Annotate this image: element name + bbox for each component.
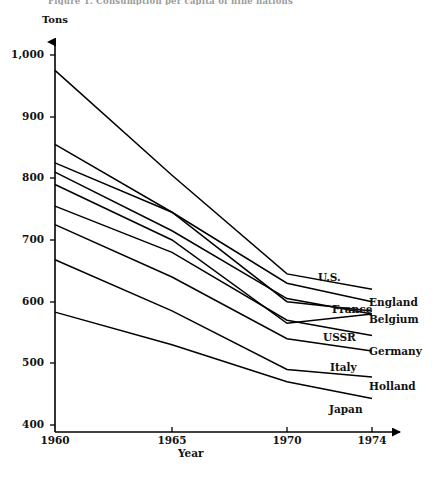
series-label-ussr: USSR (323, 331, 356, 343)
x-tick-label: 1974 (350, 434, 394, 446)
series-line-japan (55, 312, 372, 398)
y-tick-label: 500 (2, 356, 44, 368)
line-chart-figure: Figure 1. Consumption per capita of nine… (0, 0, 436, 486)
series-label-japan: Japan (329, 403, 363, 415)
series-line-us (55, 70, 372, 289)
x-tick-label: 1965 (150, 434, 194, 446)
series-label-italy: Italy (330, 361, 357, 373)
axes-group (50, 42, 400, 432)
series-label-holland: Holland (369, 380, 416, 392)
series-label-england: England (369, 296, 418, 308)
series-label-belgium: Belgium (369, 313, 419, 325)
series-label-germany: Germany (369, 345, 422, 357)
y-tick-label: 1,000 (2, 48, 44, 60)
series-line-belgium (55, 172, 372, 314)
plot-area (0, 0, 436, 486)
y-tick-label: 800 (2, 171, 44, 183)
y-tick-label: 400 (2, 418, 44, 430)
x-tick-label: 1960 (33, 434, 77, 446)
series-line-ussr (55, 185, 372, 324)
y-tick-label: 600 (2, 295, 44, 307)
series-line-france (55, 163, 372, 311)
series-label-france: France (332, 303, 372, 315)
series-label-us: U.S. (318, 271, 341, 283)
y-tick-label: 700 (2, 233, 44, 245)
series-lines-group (55, 70, 372, 398)
x-tick-label: 1970 (265, 434, 309, 446)
y-tick-label: 900 (2, 110, 44, 122)
